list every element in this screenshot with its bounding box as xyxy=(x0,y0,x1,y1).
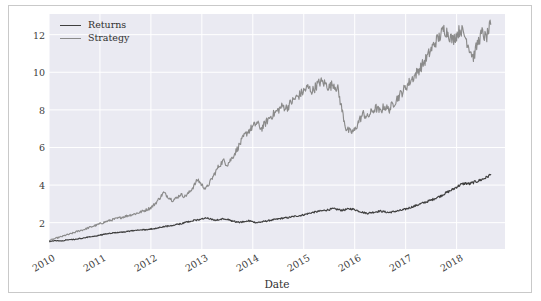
x-axis-label: Date xyxy=(49,278,505,290)
y-tick-label: 12 xyxy=(3,29,45,40)
y-tick-label: 4 xyxy=(3,180,45,191)
plot-area xyxy=(49,14,505,249)
x-tick-label: 2011 xyxy=(81,252,107,274)
legend-item-strategy: Strategy xyxy=(60,32,129,44)
x-tick-label: 2015 xyxy=(285,252,311,274)
x-tick-label: 2018 xyxy=(438,252,464,274)
chart-figure: 24681012 2010201120122013201420152016201… xyxy=(0,0,541,301)
x-tick-label: 2017 xyxy=(387,252,413,274)
x-tick-label: 2014 xyxy=(234,252,260,274)
y-tick-label: 10 xyxy=(3,67,45,78)
legend-swatch-returns xyxy=(60,25,81,26)
x-tick-label: 2010 xyxy=(30,252,56,274)
y-axis-ticks: 24681012 xyxy=(0,14,45,249)
series-lines xyxy=(49,14,505,249)
legend-item-returns: Returns xyxy=(60,19,129,31)
y-tick-label: 6 xyxy=(3,142,45,153)
chart-legend: Returns Strategy xyxy=(58,17,133,47)
legend-label-strategy: Strategy xyxy=(88,32,129,44)
x-tick-label: 2012 xyxy=(132,252,158,274)
legend-swatch-strategy xyxy=(60,38,81,39)
y-tick-label: 2 xyxy=(3,217,45,228)
x-tick-label: 2013 xyxy=(183,252,209,274)
legend-label-returns: Returns xyxy=(88,19,126,31)
y-tick-label: 8 xyxy=(3,104,45,115)
x-tick-label: 2016 xyxy=(336,252,362,274)
